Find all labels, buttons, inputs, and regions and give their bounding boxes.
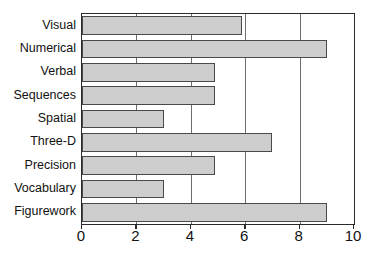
x-axis-tick-labels: 0246810 bbox=[0, 228, 383, 254]
bar-chart: VisualNumericalVerbalSequencesSpatialThr… bbox=[0, 0, 383, 264]
x-tick-label-0: 0 bbox=[77, 228, 85, 243]
y-label-visual: Visual bbox=[0, 19, 76, 32]
bar-three-d bbox=[82, 133, 272, 152]
y-label-vocabulary: Vocabulary bbox=[0, 182, 76, 195]
x-tick-label-6: 6 bbox=[240, 228, 248, 243]
bar-visual bbox=[82, 16, 242, 35]
x-tick-label-10: 10 bbox=[345, 228, 362, 243]
x-tick-label-2: 2 bbox=[131, 228, 139, 243]
plot-area bbox=[81, 13, 355, 225]
bar-row bbox=[82, 110, 354, 129]
bar-row bbox=[82, 133, 354, 152]
y-label-precision: Precision bbox=[0, 159, 76, 172]
bar-precision bbox=[82, 156, 215, 175]
bar-row bbox=[82, 40, 354, 59]
bar-numerical bbox=[82, 40, 327, 59]
x-tick-label-8: 8 bbox=[294, 228, 302, 243]
bar-sequences bbox=[82, 86, 215, 105]
y-label-spatial: Spatial bbox=[0, 112, 76, 125]
bar-row bbox=[82, 180, 354, 199]
bar-verbal bbox=[82, 63, 215, 82]
bar-row bbox=[82, 63, 354, 82]
bar-spatial bbox=[82, 110, 164, 129]
bar-vocabulary bbox=[82, 180, 164, 199]
bars-layer bbox=[82, 14, 354, 224]
bar-row bbox=[82, 203, 354, 222]
bar-row bbox=[82, 16, 354, 35]
y-label-three-d: Three-D bbox=[0, 135, 76, 148]
y-label-numerical: Numerical bbox=[0, 42, 76, 55]
bar-row bbox=[82, 156, 354, 175]
bar-row bbox=[82, 86, 354, 105]
y-axis-category-labels: VisualNumericalVerbalSequencesSpatialThr… bbox=[0, 13, 76, 223]
bar-figurework bbox=[82, 203, 327, 222]
y-label-figurework: Figurework bbox=[0, 205, 76, 218]
y-label-sequences: Sequences bbox=[0, 89, 76, 102]
y-label-verbal: Verbal bbox=[0, 65, 76, 78]
x-tick-label-4: 4 bbox=[186, 228, 194, 243]
